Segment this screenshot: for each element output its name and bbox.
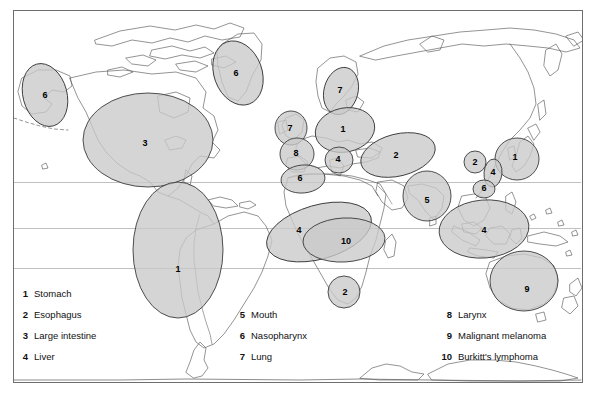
legend-number-6: 6 (240, 330, 245, 341)
legend-number-1: 1 (23, 288, 29, 299)
region-r-australia-9: 9 (490, 251, 558, 311)
figure-canvas: 6631771846254102124649 1Stomach2Esophagu… (0, 0, 597, 408)
region-ellipse-3 (83, 93, 213, 187)
region-label-r-scandinavia-7: 7 (337, 85, 342, 95)
region-label-r-southamerica-1: 1 (175, 264, 180, 274)
legend-number-9: 9 (447, 330, 452, 341)
region-r-guangdong-6: 6 (473, 180, 495, 198)
region-r-southamerica-1: 1 (133, 182, 223, 318)
region-label-r-guangdong-6: 6 (481, 183, 486, 193)
legend-label-6: Nasopharynx (251, 330, 307, 341)
legend-number-8: 8 (447, 309, 452, 320)
region-label-r-alaska-6: 6 (42, 90, 47, 100)
region-label-r-china-2: 2 (472, 157, 477, 167)
region-label-r-italy-4: 4 (335, 154, 340, 164)
region-label-r-centralasia-2: 2 (393, 150, 398, 160)
region-r-northamerica-3: 3 (83, 93, 213, 187)
legend-number-3: 3 (23, 330, 28, 341)
world-map-figure: 6631771846254102124649 1Stomach2Esophagu… (0, 0, 597, 408)
legend-label-9: Malignant melanoma (458, 330, 547, 341)
region-r-china-2: 2 (464, 151, 486, 173)
region-ellipse-9 (490, 251, 558, 311)
legend-number-4: 4 (23, 351, 29, 362)
region-r-southafrica-2: 2 (328, 276, 360, 308)
legend-label-8: Larynx (458, 309, 487, 320)
legend-label-10: Burkitt's lymphoma (458, 351, 539, 362)
region-label-r-taiwan-4: 4 (490, 167, 495, 177)
region-label-r-greenland-6: 6 (233, 68, 238, 78)
legend-label-2: Esophagus (34, 309, 82, 320)
region-label-r-maghreb-6: 6 (297, 173, 302, 183)
legend-label-4: Liver (34, 351, 55, 362)
legend-number-10: 10 (441, 351, 452, 362)
region-label-r-africa-4: 4 (296, 225, 301, 235)
region-label-r-northamerica-3: 3 (142, 138, 147, 148)
region-label-r-japan-1: 1 (512, 152, 517, 162)
legend-number-5: 5 (240, 309, 246, 320)
region-label-r-easteurope-1: 1 (340, 124, 345, 134)
legend-number-7: 7 (240, 351, 245, 362)
legend-label-5: Mouth (251, 309, 277, 320)
legend-label-3: Large intestine (34, 330, 96, 341)
region-label-r-africa-10: 10 (341, 236, 351, 246)
region-label-r-india-5: 5 (424, 195, 429, 205)
region-label-r-southafrica-2: 2 (342, 287, 347, 297)
legend-label-1: Stomach (34, 288, 72, 299)
region-label-r-seasia-4: 4 (481, 225, 486, 235)
region-label-r-australia-9: 9 (524, 284, 529, 294)
legend-label-7: Lung (251, 351, 272, 362)
region-r-india-5: 5 (403, 171, 451, 221)
region-label-r-france-8: 8 (293, 148, 298, 158)
legend-number-2: 2 (23, 309, 28, 320)
region-r-italy-4: 4 (325, 147, 353, 173)
region-label-r-britain-7: 7 (287, 123, 292, 133)
region-ellipse-1 (133, 182, 223, 318)
